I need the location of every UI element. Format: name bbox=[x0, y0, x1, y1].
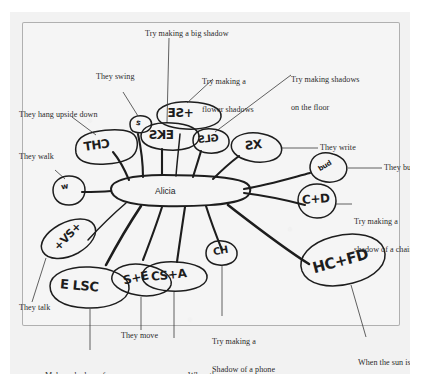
caption-try-making-shadows-on-the-floor-line2: on the floor bbox=[291, 103, 360, 112]
spoke-when-the-sun-is-down bbox=[177, 207, 185, 262]
caption-they-build: They build bbox=[384, 163, 410, 172]
caption-try-making-shadows-on-the-floor: Try making shadows on the floor bbox=[291, 56, 360, 131]
spoke-they-walk bbox=[82, 191, 111, 192]
bubble-text-they-walk: w bbox=[60, 181, 68, 191]
spoke-they-write bbox=[213, 156, 239, 179]
center-node-label: Alicia bbox=[155, 186, 176, 196]
spoke-they-build bbox=[244, 173, 310, 189]
caption-try-making-a-flower-shadows-line2: flower shadows bbox=[202, 105, 254, 114]
bubble-they-walk bbox=[53, 176, 85, 205]
caption-they-swing: They swing bbox=[96, 72, 135, 81]
bubble-text-try-making-a-big-shadow: EKS bbox=[149, 128, 174, 142]
spoke-when-the-sun-is-up bbox=[228, 205, 309, 264]
scanned-page: .ln{fill:none;stroke:#1d1d1d;stroke-line… bbox=[10, 12, 410, 374]
leader-they-hang-upside-down bbox=[72, 117, 96, 135]
caption-they-move: They move bbox=[121, 331, 158, 340]
screenshot-root: .ln{fill:none;stroke:#1d1d1d;stroke-line… bbox=[0, 0, 422, 392]
caption-try-making-a-shadow-of-a-chair: Try making a shadow of a chair bbox=[354, 198, 410, 273]
bubble-text-they-write: XS bbox=[244, 137, 262, 153]
caption-try-making-a-big-shadow: Try making a big shadow bbox=[145, 29, 229, 38]
leader-they-talk bbox=[32, 258, 46, 302]
caption-try-making-a-shadow-of-a-phone-line1: Try making a bbox=[212, 337, 275, 346]
caption-when-the-sun-is-down-line1: When the sun bbox=[188, 371, 257, 374]
caption-they-write: They write bbox=[320, 143, 356, 152]
center-node-oval bbox=[111, 175, 250, 206]
caption-try-making-a-shadow-of-a-chair-line2: shadow of a chair bbox=[354, 245, 410, 254]
leader-when-the-sun-is-up bbox=[351, 285, 366, 337]
caption-when-the-sun-is-up-line1: When the sun is up, bbox=[358, 358, 410, 367]
spoke-they-move bbox=[143, 207, 162, 260]
spoke-try-making-a-shadow-of-a-chair bbox=[244, 193, 305, 205]
bubble-text-try-making-shadows-on-the-floor: GLS bbox=[197, 132, 219, 145]
caption-make-a-shadow-of-the-circle-of-the-light: Make a shadow of the circle of the light bbox=[45, 352, 114, 374]
caption-they-talk: They talk bbox=[19, 303, 50, 312]
spoke-try-making-a-shadow-of-a-phone bbox=[206, 206, 222, 250]
caption-they-walk: They walk bbox=[19, 152, 54, 161]
caption-make-a-shadow-of-the-circle-of-the-light-line1: Make a shadow of bbox=[45, 371, 114, 374]
spoke-make-a-shadow-of-the-circle-of-the-light bbox=[106, 206, 141, 265]
caption-try-making-shadows-on-the-floor-line1: Try making shadows bbox=[291, 75, 360, 84]
bubble-text-try-making-a-flower-shadows: +SE bbox=[168, 106, 194, 120]
caption-try-making-a-flower-shadows: Try making a flower shadows bbox=[202, 58, 254, 133]
spoke-try-making-a-flower-shadows bbox=[176, 134, 180, 176]
caption-when-the-sun-is-down: When the sun is down, they are big bbox=[188, 352, 257, 374]
caption-try-making-a-shadow-of-a-chair-line1: Try making a bbox=[354, 217, 410, 226]
leader-they-swing bbox=[123, 92, 138, 116]
caption-they-hang-upside-down: They hang upside down bbox=[19, 110, 98, 119]
caption-try-making-a-flower-shadows-line1: Try making a bbox=[202, 77, 254, 86]
bubble-text-try-making-a-shadow-of-a-chair: C+D bbox=[302, 191, 331, 207]
spoke-they-talk bbox=[88, 203, 126, 240]
spoke-try-making-shadows-on-the-floor bbox=[193, 151, 201, 177]
caption-when-the-sun-is-up: When the sun is up, they are little bbox=[358, 339, 410, 374]
spoke-they-hang-upside-down bbox=[113, 152, 129, 180]
